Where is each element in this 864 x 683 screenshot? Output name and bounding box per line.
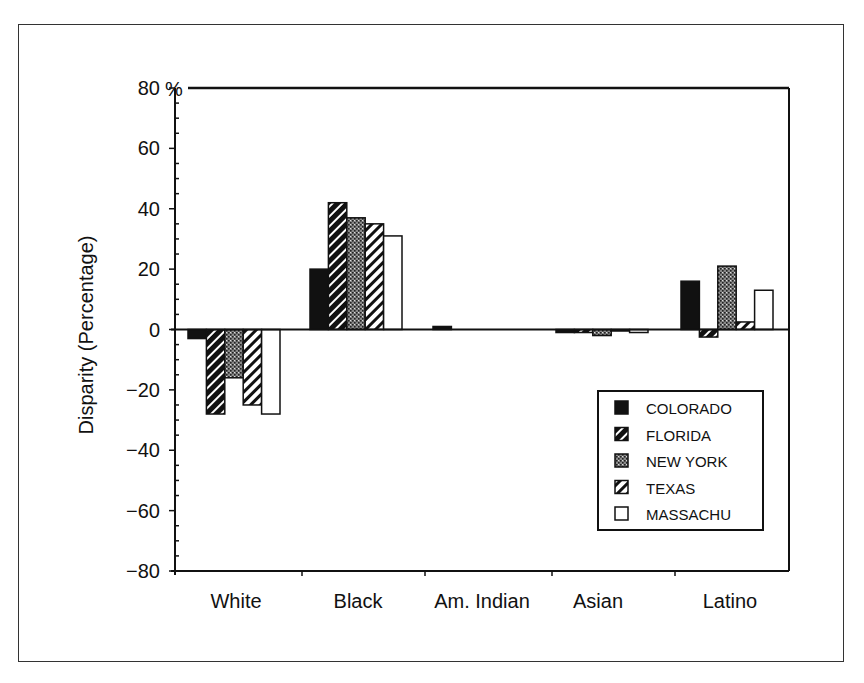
bar-black-colorado xyxy=(310,269,328,329)
legend-swatch xyxy=(615,507,628,520)
legend-swatch xyxy=(615,454,628,467)
legend-swatch xyxy=(615,401,628,414)
y-tick-label: 80 xyxy=(138,77,160,99)
bar-latino-texas xyxy=(736,322,754,330)
legend-label: MASSACHU xyxy=(646,506,731,523)
bar-chart: 806040200−20−40−60−80 WhiteBlackAm. Indi… xyxy=(0,0,864,683)
legend: COLORADOFLORIDANEW YORKTEXASMASSACHU xyxy=(598,391,763,530)
bar-white-new-york xyxy=(225,330,243,378)
x-category-label: Am. Indian xyxy=(434,590,530,612)
x-axis-category-labels: WhiteBlackAm. IndianAsianLatino xyxy=(210,590,757,612)
bar-black-texas xyxy=(365,224,383,330)
bars-group xyxy=(188,203,773,414)
bar-white-florida xyxy=(206,330,224,415)
y-tick-label: 60 xyxy=(138,137,160,159)
y-axis-title: Disparity (Percentage) xyxy=(75,236,97,435)
legend-swatch xyxy=(615,481,628,494)
y-tick-label: −60 xyxy=(126,500,160,522)
x-category-label: White xyxy=(210,590,261,612)
y-tick-label: 0 xyxy=(149,319,160,341)
y-tick-label: −40 xyxy=(126,439,160,461)
legend-label: TEXAS xyxy=(646,480,695,497)
bar-black-new-york xyxy=(347,218,365,330)
bar-latino-colorado xyxy=(681,281,699,329)
bar-latino-florida xyxy=(699,330,717,338)
x-category-label: Black xyxy=(334,590,384,612)
legend-label: FLORIDA xyxy=(646,427,711,444)
y-tick-label: −80 xyxy=(126,560,160,582)
bar-white-massachu xyxy=(262,330,280,415)
bar-latino-new-york xyxy=(718,266,736,329)
x-category-label: Asian xyxy=(573,590,623,612)
x-category-label: Latino xyxy=(703,590,758,612)
bar-latino-massachu xyxy=(755,290,773,329)
bar-white-texas xyxy=(243,330,261,405)
bar-black-massachu xyxy=(384,236,402,330)
y-tick-label: 20 xyxy=(138,258,160,280)
y-tick-label: −20 xyxy=(126,379,160,401)
y-unit-label: % xyxy=(165,78,183,100)
legend-label: NEW YORK xyxy=(646,453,727,470)
legend-swatch xyxy=(615,428,628,441)
bar-white-colorado xyxy=(188,330,206,339)
y-tick-label: 40 xyxy=(138,198,160,220)
bar-black-florida xyxy=(328,203,346,330)
legend-label: COLORADO xyxy=(646,400,732,417)
y-axis-tick-labels: 806040200−20−40−60−80 xyxy=(126,77,160,582)
